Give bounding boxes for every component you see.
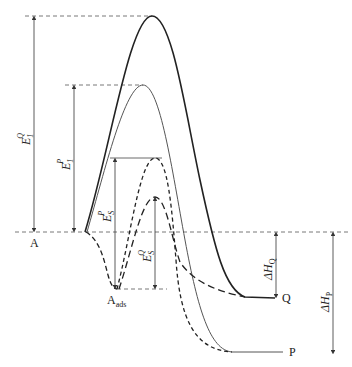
label-dhq: ΔHQ [261,258,277,281]
label-esp: ESP [97,211,116,223]
svg-text:ΔHQ: ΔHQ [261,258,277,281]
label-e1p: E1P [56,159,75,171]
label-p: P [289,345,296,359]
label-aads: Aads [107,293,126,309]
label-a: A [30,236,39,250]
label-esq: ESQ [137,250,156,263]
curve-p-surface [117,158,232,352]
svg-text:ESP: ESP [97,211,116,223]
curve-adsorption-dip [86,232,117,289]
svg-text:E1P: E1P [56,159,75,171]
label-q: Q [282,291,291,305]
curve-q-surface [119,197,245,297]
curve-p-uncatalyzed [87,85,283,352]
label-e1q: E1Q [16,133,35,146]
label-dhp: ΔHP [318,291,334,313]
energy-diagram: A Aads Q P E1Q E1P ESP ESQ ΔHQ ΔHP [0,0,352,367]
svg-text:ESQ: ESQ [137,250,156,263]
svg-text:E1Q: E1Q [16,133,35,146]
svg-text:ΔHP: ΔHP [318,291,334,313]
curve-q-uncatalyzed [85,16,275,298]
